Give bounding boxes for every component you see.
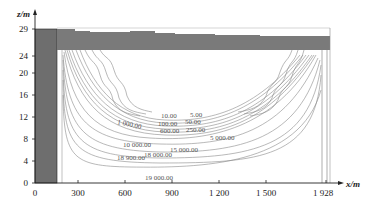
svg-text:600.00: 600.00 <box>160 127 180 135</box>
svg-text:19 000.00: 19 000.00 <box>145 174 174 182</box>
x-tick-label: 1 500 <box>256 188 277 198</box>
svg-text:15 000.00: 15 000.00 <box>170 146 199 154</box>
x-tick-label: 1 200 <box>209 188 230 198</box>
svg-text:50.00: 50.00 <box>185 118 201 126</box>
y-tick-label: 29 <box>19 24 29 34</box>
x-tick-label: 1 928 <box>313 188 334 198</box>
x-tick-label: 900 <box>165 188 179 198</box>
y-tick-label: 16 <box>19 90 29 100</box>
y-tick-label: 8 <box>24 134 29 144</box>
svg-text:18 000.00: 18 000.00 <box>144 151 173 159</box>
svg-text:10.00: 10.00 <box>161 112 177 120</box>
x-tick-label: 300 <box>71 188 85 198</box>
contour-labels: 10.00 5.00 100.00 50.00 600.00 250.00 1 … <box>117 111 235 182</box>
y-tick-label: 24 <box>19 51 29 61</box>
x-axis-title: x/m <box>345 179 360 189</box>
y-tick-label: 4 <box>24 156 29 166</box>
y-tick-label: 12 <box>19 112 28 122</box>
y-axis-arrow-icon <box>33 9 37 15</box>
contour-diagram: 10.00 5.00 100.00 50.00 600.00 250.00 1 … <box>0 0 375 216</box>
y-axis-title: z/m <box>16 9 30 19</box>
x-tick-label: 600 <box>118 188 132 198</box>
svg-text:5 000.00: 5 000.00 <box>210 134 235 142</box>
svg-text:250.00: 250.00 <box>186 126 206 134</box>
top-layer-region <box>57 29 330 50</box>
y-tick-label: 0 <box>24 178 29 188</box>
svg-text:10 000.00: 10 000.00 <box>123 141 152 149</box>
y-tick-label: 20 <box>19 68 29 78</box>
x-tick-label: 0 <box>33 188 38 198</box>
x-axis-arrow-icon <box>338 181 344 185</box>
left-wall-region <box>35 29 57 183</box>
svg-text:18 900.00: 18 900.00 <box>117 154 146 162</box>
